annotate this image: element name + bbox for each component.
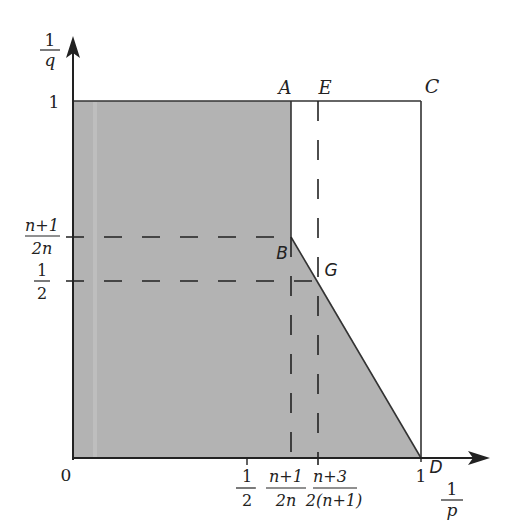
- y-tick-n1-2n-den: 2n: [31, 239, 52, 258]
- y-tick-1: 1: [49, 92, 60, 112]
- y-tick-half-num: 1: [37, 261, 47, 280]
- y-tick-n1-2n-num: n+1: [25, 216, 59, 235]
- x-tick-n1-2n-den: 2n: [275, 491, 296, 510]
- shaded-region: [73, 101, 421, 458]
- region-diagram: 1 q 1 n+1 2n 1 2 0 1 2 n+1 2n n+3 2(n+1)…: [0, 0, 514, 529]
- x-tick-n3-num: n+3: [313, 467, 347, 486]
- point-label-b: B: [276, 243, 288, 263]
- y-axis-label-num: 1: [45, 30, 56, 50]
- point-label-g: G: [324, 260, 337, 280]
- point-label-a: A: [277, 77, 292, 98]
- point-label-c: C: [425, 75, 440, 97]
- shade-streak: [93, 102, 97, 457]
- x-tick-half-num: 1: [242, 467, 252, 486]
- origin-label: 0: [61, 465, 72, 485]
- point-label-e: E: [317, 77, 331, 98]
- point-label-d: D: [429, 457, 442, 477]
- x-tick-n1-2n-num: n+1: [269, 467, 303, 486]
- x-tick-half-den: 2: [242, 491, 252, 510]
- x-tick-n3-den: 2(n+1): [305, 491, 363, 510]
- x-axis-label-num: 1: [447, 479, 458, 499]
- x-tick-1-label: 1: [416, 466, 427, 486]
- y-tick-half-den: 2: [37, 284, 47, 303]
- y-axis-label-den: q: [45, 50, 56, 70]
- x-axis-label-den: p: [447, 500, 458, 520]
